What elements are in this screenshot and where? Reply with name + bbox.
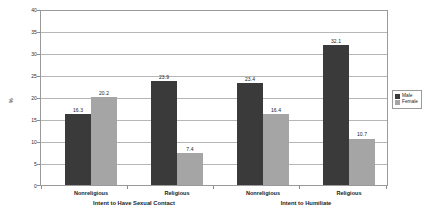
bar-male-nonreligious-sexual-contact[interactable] bbox=[65, 114, 91, 185]
bar-value-male-religious-humiliate: 32.1 bbox=[331, 39, 341, 44]
bar-value-female-religious-humiliate: 10.7 bbox=[357, 132, 367, 137]
x-tick-mark-end bbox=[386, 186, 387, 189]
bar-male-religious-humiliate[interactable] bbox=[323, 45, 349, 185]
bar-female-religious-humiliate[interactable] bbox=[349, 139, 375, 186]
x-tick-mark-3 bbox=[299, 186, 300, 189]
bars-layer: 16.3 20.2 23.9 7.4 23.4 16.4 32.1 10.7 bbox=[41, 11, 387, 185]
x-category-label-nonreligious-1: Nonreligious bbox=[74, 191, 108, 197]
x-group-label-sexual-contact: Intent to Have Sexual Contact bbox=[93, 201, 175, 207]
legend: Male Female bbox=[392, 90, 422, 109]
bar-female-nonreligious-sexual-contact[interactable] bbox=[91, 97, 117, 185]
x-category-label-nonreligious-2: Nonreligious bbox=[246, 191, 280, 197]
bar-value-female-religious-sexual-contact: 7.4 bbox=[186, 147, 193, 152]
legend-swatch-male-icon bbox=[395, 94, 400, 99]
legend-item-female[interactable]: Female bbox=[395, 100, 418, 105]
x-category-label-religious-2: Religious bbox=[336, 191, 361, 197]
bar-value-female-nonreligious-sexual-contact: 20.2 bbox=[99, 91, 109, 96]
y-axis-tick-labels: 40 35 30 25 20 15 10 5 0 bbox=[22, 10, 37, 186]
bar-chart: % 40 35 30 25 20 15 10 5 0 bbox=[0, 0, 439, 222]
bar-value-male-nonreligious-sexual-contact: 16.3 bbox=[73, 108, 83, 113]
x-tick-mark-2 bbox=[213, 186, 214, 189]
bar-female-religious-sexual-contact[interactable] bbox=[177, 153, 203, 185]
bar-value-female-nonreligious-humiliate: 16.4 bbox=[271, 108, 281, 113]
bar-value-male-religious-sexual-contact: 23.9 bbox=[159, 75, 169, 80]
bar-male-nonreligious-humiliate[interactable] bbox=[237, 83, 263, 185]
bar-value-male-nonreligious-humiliate: 23.4 bbox=[245, 77, 255, 82]
bar-female-nonreligious-humiliate[interactable] bbox=[263, 114, 289, 185]
x-tick-mark-start bbox=[41, 186, 42, 189]
legend-swatch-female-icon bbox=[395, 100, 400, 105]
x-tick-mark-1 bbox=[127, 186, 128, 189]
x-group-label-humiliate: Intent to Humiliate bbox=[281, 201, 332, 207]
y-axis-title: % bbox=[9, 98, 15, 103]
bar-male-religious-sexual-contact[interactable] bbox=[151, 81, 177, 185]
x-axis: Nonreligious Religious Nonreligious Reli… bbox=[41, 186, 387, 222]
legend-label-female: Female bbox=[402, 100, 418, 105]
x-category-label-religious-1: Religious bbox=[164, 191, 189, 197]
